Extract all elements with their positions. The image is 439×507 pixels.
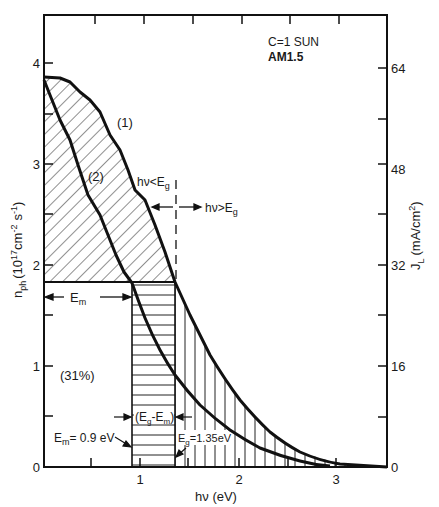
- top-ticks: [95, 15, 339, 24]
- svg-text:16: 16: [391, 359, 405, 374]
- right-tick-labels: 0 16 32 48 64: [391, 61, 405, 475]
- bottom-tick-labels: 1 2 3: [136, 472, 339, 487]
- right-ticks: [378, 68, 387, 417]
- svg-text:3: 3: [332, 472, 339, 487]
- svg-text:JL(mA/cm2): JL(mA/cm2): [407, 201, 426, 270]
- svg-text:0: 0: [391, 460, 398, 475]
- em-span-arrow: [45, 294, 131, 300]
- hv-greater-than-eg-label: hν>Eg: [205, 201, 238, 217]
- efficiency-percent-label: (31%): [60, 368, 95, 383]
- svg-text:0: 0: [33, 460, 40, 475]
- eg-minus-em-region: [132, 282, 175, 467]
- em-value-arrow: [115, 437, 131, 447]
- em-span-label: Em: [70, 290, 86, 307]
- x-axis-label: hν (eV): [195, 489, 237, 504]
- curve-1-label: (1): [117, 115, 133, 130]
- photon-flux-chart: 0 1 2 3 4 0 16 32 48 64 1 2 3 hν (eV) np…: [0, 0, 439, 507]
- condition-concentration: C=1 SUN: [268, 35, 319, 49]
- left-tick-labels: 0 1 2 3 4: [33, 56, 40, 475]
- svg-text:32: 32: [391, 258, 405, 273]
- svg-text:48: 48: [391, 162, 405, 177]
- hatched-regions: [44, 60, 387, 467]
- svg-text:4: 4: [33, 56, 40, 71]
- svg-text:nph(1017cm-2s-1): nph(1017cm-2s-1): [9, 202, 28, 298]
- svg-text:1: 1: [136, 472, 143, 487]
- hv-less-than-eg-label: hν<Eg: [137, 175, 170, 191]
- svg-text:2: 2: [235, 472, 242, 487]
- svg-text:1: 1: [33, 359, 40, 374]
- left-y-axis-label: nph(1017cm-2s-1): [9, 202, 28, 298]
- svg-text:2: 2: [33, 258, 40, 273]
- bandgap-arrows: [152, 204, 201, 210]
- condition-airmass: AM1.5: [268, 50, 304, 64]
- svg-text:3: 3: [33, 157, 40, 172]
- svg-text:64: 64: [391, 61, 405, 76]
- em-value-label: Em= 0.9 eV: [54, 431, 115, 447]
- curve-2-label: (2): [88, 169, 104, 184]
- right-y-axis-label: JL(mA/cm2): [407, 201, 426, 270]
